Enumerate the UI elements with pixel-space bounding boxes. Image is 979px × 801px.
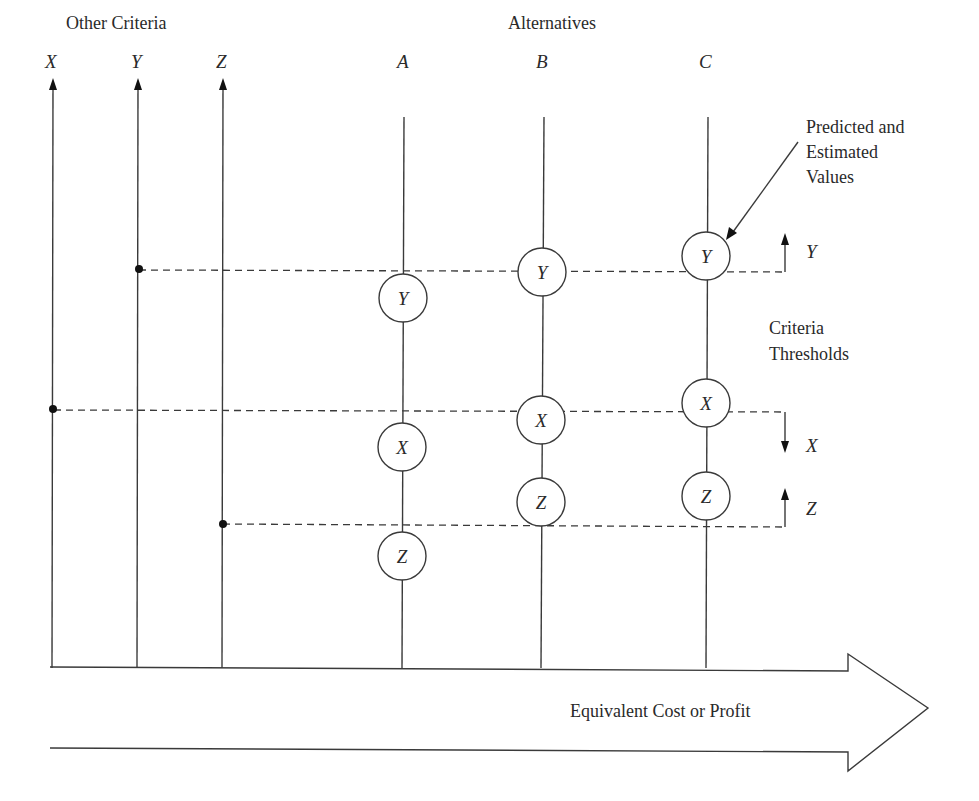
alternative-b-line bbox=[541, 117, 544, 668]
criterion-y-axis bbox=[137, 84, 138, 668]
predicted-values-annotation: Predicted and Estimated Values bbox=[726, 117, 904, 240]
alternative-a-line bbox=[402, 117, 404, 668]
node-c-z-label: Z bbox=[701, 486, 712, 507]
threshold-x-label: X bbox=[805, 435, 819, 456]
threshold-z-line bbox=[223, 524, 785, 527]
alternative-lines bbox=[402, 117, 708, 668]
node-a-x-label: X bbox=[395, 437, 409, 458]
decision-diagram: Other Criteria Alternatives X Y Z A B C … bbox=[0, 0, 979, 801]
criteria-thresholds-annotation: Criteria Thresholds bbox=[769, 318, 849, 364]
arrow-up-icon bbox=[49, 78, 57, 90]
node-b-x-label: X bbox=[534, 410, 548, 431]
criterion-z-axis bbox=[222, 84, 223, 668]
annotation-pointer-line bbox=[733, 142, 798, 232]
threshold-indicators: Y X Z bbox=[781, 233, 819, 527]
criterion-x-label: X bbox=[44, 51, 58, 72]
arrow-up-icon bbox=[134, 78, 142, 90]
other-criteria-heading: Other Criteria bbox=[66, 13, 166, 33]
criteria-thresholds-line-2: Thresholds bbox=[769, 344, 849, 364]
arrow-down-icon bbox=[781, 441, 789, 453]
alternative-a-nodes: Y X Z bbox=[378, 274, 427, 580]
threshold-y-dot bbox=[135, 265, 143, 273]
alternative-c-nodes: Y X Z bbox=[682, 232, 730, 520]
threshold-x-line bbox=[54, 410, 785, 412]
threshold-z-dot bbox=[219, 520, 227, 528]
arrow-up-icon bbox=[219, 78, 227, 90]
alternative-c-label: C bbox=[699, 51, 712, 72]
node-c-x-label: X bbox=[699, 393, 713, 414]
criteria-thresholds-line-1: Criteria bbox=[769, 318, 824, 338]
criterion-z-label: Z bbox=[216, 51, 227, 72]
threshold-y-label: Y bbox=[806, 241, 819, 262]
criteria-axes bbox=[49, 78, 227, 668]
predicted-line-2: Estimated bbox=[806, 142, 878, 162]
criterion-x-axis bbox=[52, 84, 53, 668]
alternative-b-label: B bbox=[536, 51, 548, 72]
big-right-arrow-icon bbox=[50, 654, 928, 771]
threshold-z-label: Z bbox=[806, 498, 817, 519]
predicted-line-1: Predicted and bbox=[806, 117, 904, 137]
predicted-line-3: Values bbox=[806, 167, 854, 187]
arrow-up-icon bbox=[781, 233, 789, 245]
node-a-z-label: Z bbox=[397, 546, 408, 567]
equivalent-cost-label: Equivalent Cost or Profit bbox=[570, 701, 750, 721]
arrow-up-icon bbox=[781, 488, 789, 500]
alternatives-heading: Alternatives bbox=[508, 13, 596, 33]
equivalent-cost-arrow: Equivalent Cost or Profit bbox=[50, 654, 928, 771]
alternative-a-label: A bbox=[395, 51, 409, 72]
threshold-x-dot bbox=[49, 405, 57, 413]
alternative-b-nodes: Y X Z bbox=[517, 248, 566, 526]
node-b-z-label: Z bbox=[536, 492, 547, 513]
criterion-y-label: Y bbox=[131, 51, 144, 72]
